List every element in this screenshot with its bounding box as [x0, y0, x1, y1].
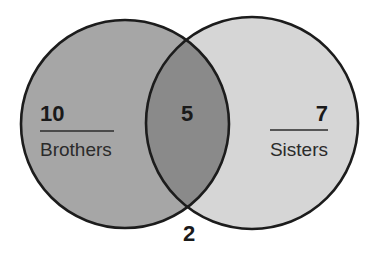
both-count: 5 [181, 101, 193, 126]
neither-count: 2 [183, 221, 195, 246]
brothers-only-count: 10 [40, 101, 64, 126]
sisters-only-count: 7 [316, 101, 328, 126]
brothers-label: Brothers [40, 139, 112, 160]
venn-diagram: 10 Brothers 5 7 Sisters 2 [0, 0, 377, 254]
sisters-label: Sisters [270, 139, 328, 160]
